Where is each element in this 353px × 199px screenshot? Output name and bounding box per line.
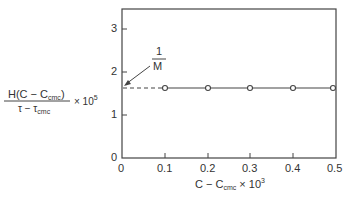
- x-tick-label: 0.3: [242, 162, 257, 174]
- y-tick-label: 2: [111, 65, 117, 77]
- plot-frame: [122, 9, 336, 158]
- y-tick-label: 1: [111, 108, 117, 120]
- x-tick-label: 0: [118, 162, 124, 174]
- annotation-denominator: M: [153, 60, 162, 72]
- annotation-arrow: [126, 66, 150, 84]
- ylabel-denominator: τ − τcmc: [18, 103, 50, 115]
- x-tick-label: 0.4: [285, 162, 300, 174]
- ylabel-numerator: H(C − Ccmc): [8, 88, 65, 101]
- x-tick-label: 0.1: [157, 162, 172, 174]
- annotation-numerator: 1: [156, 45, 162, 57]
- y-tick-label: 0: [111, 151, 117, 163]
- ylabel-multiplier: × 105: [74, 94, 98, 107]
- xlabel: C − Ccmc × 103: [195, 177, 265, 191]
- x-tick-label: 0.2: [200, 162, 215, 174]
- x-tick-label: 0.5: [327, 162, 342, 174]
- y-tick-label: 3: [111, 22, 117, 34]
